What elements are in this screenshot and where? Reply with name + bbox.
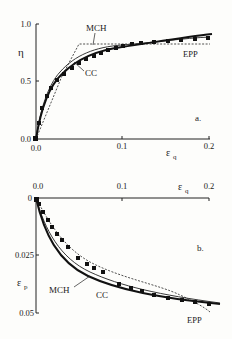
y-tick-label: 0.0 <box>20 134 31 144</box>
label-epp-a: EPP <box>183 49 198 59</box>
y-tick-label: 0.025 <box>15 250 34 260</box>
panel-label-b: b. <box>197 243 204 253</box>
x-tick-label: 0.2 <box>204 181 215 191</box>
x-tick-label: 0.1 <box>117 141 128 151</box>
y-tick-label: 0.5 <box>20 76 31 86</box>
x-tick-label: 0.0 <box>31 143 42 153</box>
label-epp-b: EPP <box>187 315 202 325</box>
panel-b: 0.0 0.1 0.2 0 0.025 0.05 ε q ε p <box>15 181 220 325</box>
y-tick-label: 1.0 <box>20 19 31 29</box>
y-axis-label-epsilon: ε <box>17 277 21 288</box>
panel-label-a: a. <box>195 113 201 123</box>
y-axis-label-sub: p <box>24 283 28 291</box>
leader-mch-a <box>93 33 95 45</box>
x-tick-label: 0.0 <box>33 181 44 191</box>
label-mch-a: MCH <box>86 23 107 33</box>
x-axis-label-sub: q <box>185 187 189 195</box>
x-axis-label-sub: q <box>173 153 177 161</box>
x-axis-label-epsilon: ε <box>166 147 170 158</box>
label-cc-b: CC <box>96 290 108 300</box>
x-axis-label-epsilon: ε <box>178 181 182 192</box>
label-mch-b: MCH <box>49 285 70 295</box>
figure: 1.0 0.5 0.0 0.0 0.1 0.2 η ε q <box>0 0 232 339</box>
label-cc-a: CC <box>85 68 97 78</box>
y-tick-label: 0.05 <box>19 308 34 318</box>
y-axis-label-eta: η <box>18 46 24 58</box>
panel-a: 1.0 0.5 0.0 0.0 0.1 0.2 η ε q <box>18 19 214 161</box>
x-tick-label: 0.2 <box>204 141 215 151</box>
x-tick-label: 0.1 <box>117 181 128 191</box>
leader-mch-b <box>74 276 90 287</box>
y-tick-label: 0 <box>28 193 32 203</box>
